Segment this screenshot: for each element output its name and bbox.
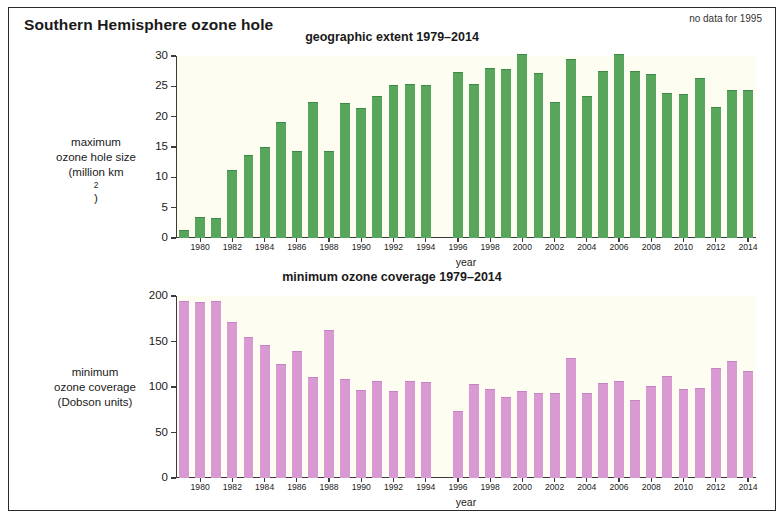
x-tick-label-coverage-1990: 1990	[352, 483, 371, 492]
bar-extent-1991	[372, 96, 382, 238]
bar-extent-2002	[550, 102, 560, 238]
y-tick-extent	[171, 207, 176, 208]
y-axis-bottom	[176, 296, 177, 478]
x-tick-label-coverage-1988: 1988	[319, 483, 338, 492]
bar-extent-2010	[679, 94, 689, 238]
bar-extent-2008	[646, 74, 656, 238]
bar-extent-1985	[276, 122, 286, 238]
x-tick-label-coverage-2006: 2006	[609, 483, 628, 492]
plot-area-bottom: 0501001502001980198219841986198819901992…	[176, 296, 756, 478]
bar-coverage-1981	[211, 301, 221, 478]
x-tick-label-extent-1992: 1992	[384, 243, 403, 252]
ozone-hole-figure: Southern Hemisphere ozone hole no data f…	[0, 0, 784, 521]
y-tick-label-extent: 30	[155, 50, 168, 62]
bar-extent-2003	[566, 59, 576, 238]
x-tick-label-extent-2010: 2010	[674, 243, 693, 252]
x-tick-label-coverage-2000: 2000	[513, 483, 532, 492]
x-axis-title-top: year	[456, 256, 476, 268]
bar-extent-1998	[485, 68, 495, 238]
x-tick-label-coverage-1982: 1982	[223, 483, 242, 492]
y-tick-coverage	[171, 386, 176, 387]
y-axis-title-bottom-line1: minimum	[20, 365, 170, 380]
x-tick-label-coverage-2014: 2014	[738, 483, 757, 492]
x-tick-label-coverage-2008: 2008	[642, 483, 661, 492]
bar-extent-1980	[195, 217, 205, 238]
y-axis-title-bottom: minimum ozone coverage (Dobson units)	[20, 365, 170, 411]
bar-coverage-1997	[469, 384, 479, 478]
bar-coverage-2013	[727, 361, 737, 478]
bar-extent-1990	[356, 108, 366, 238]
bar-coverage-2005	[598, 383, 608, 478]
bar-coverage-1988	[324, 330, 334, 478]
y-axis-top	[176, 56, 177, 238]
bar-coverage-1996	[453, 411, 463, 478]
x-tick-label-coverage-1986: 1986	[287, 483, 306, 492]
bar-coverage-2011	[695, 388, 705, 478]
y-tick-label-coverage: 150	[149, 336, 168, 348]
bar-extent-1988	[324, 151, 334, 238]
bar-extent-1982	[227, 170, 237, 238]
y-axis-title-top-line1: maximum	[26, 135, 166, 150]
y-axis-title-bottom-line2: ozone coverage	[20, 380, 170, 395]
bar-coverage-1983	[244, 337, 254, 478]
bar-coverage-1984	[260, 345, 270, 478]
bar-extent-1994	[421, 85, 431, 238]
x-tick-label-coverage-1998: 1998	[481, 483, 500, 492]
bar-coverage-2012	[711, 368, 721, 478]
bar-extent-2005	[598, 71, 608, 238]
bar-extent-1984	[260, 147, 270, 238]
y-tick-label-extent: 25	[155, 81, 168, 93]
bar-coverage-2000	[517, 391, 527, 478]
bar-extent-2007	[630, 71, 640, 238]
bar-extent-2006	[614, 54, 624, 238]
x-tick-label-extent-1984: 1984	[255, 243, 274, 252]
y-tick-label-coverage: 50	[155, 427, 168, 439]
bar-extent-1997	[469, 84, 479, 238]
y-tick-coverage	[171, 477, 176, 478]
bar-coverage-1994	[421, 382, 431, 478]
y-tick-extent	[171, 177, 176, 178]
bar-extent-2004	[582, 96, 592, 238]
bar-coverage-1989	[340, 379, 350, 478]
bar-coverage-2009	[662, 376, 672, 478]
bar-extent-1981	[211, 218, 221, 238]
y-tick-label-coverage: 0	[162, 472, 168, 484]
x-tick-label-extent-1982: 1982	[223, 243, 242, 252]
bar-coverage-1980	[195, 302, 205, 478]
x-tick-label-coverage-1984: 1984	[255, 483, 274, 492]
bar-coverage-2001	[534, 393, 544, 478]
bar-extent-2013	[727, 90, 737, 238]
y-tick-label-coverage: 100	[149, 381, 168, 393]
bar-extent-1986	[292, 151, 302, 238]
bar-extent-1992	[389, 85, 399, 238]
y-tick-extent	[171, 86, 176, 87]
y-tick-label-extent: 15	[155, 141, 168, 153]
x-tick-label-coverage-1980: 1980	[191, 483, 210, 492]
bar-coverage-1999	[501, 397, 511, 478]
y-tick-label-extent: 0	[162, 232, 168, 244]
x-tick-label-extent-1994: 1994	[416, 243, 435, 252]
bar-extent-1987	[308, 102, 318, 238]
y-tick-coverage	[171, 295, 176, 296]
x-tick-label-extent-2000: 2000	[513, 243, 532, 252]
x-axis-title-bottom: year	[456, 496, 476, 508]
y-tick-label-extent: 5	[162, 202, 168, 214]
y-axis-title-top-line3: (million km2)	[26, 165, 166, 206]
x-tick-label-coverage-1996: 1996	[448, 483, 467, 492]
bar-coverage-2007	[630, 400, 640, 478]
y-tick-extent	[171, 116, 176, 117]
x-tick-label-coverage-2004: 2004	[577, 483, 596, 492]
x-tick-label-extent-1988: 1988	[319, 243, 338, 252]
x-tick-label-extent-2006: 2006	[609, 243, 628, 252]
x-tick-label-coverage-2012: 2012	[706, 483, 725, 492]
bar-coverage-1986	[292, 351, 302, 478]
bar-coverage-2008	[646, 386, 656, 478]
bar-extent-1999	[501, 69, 511, 238]
y-tick-extent	[171, 146, 176, 147]
x-tick-label-extent-2004: 2004	[577, 243, 596, 252]
bar-extent-2001	[534, 73, 544, 238]
x-tick-label-coverage-2002: 2002	[545, 483, 564, 492]
bar-coverage-2002	[550, 393, 560, 478]
no-data-note: no data for 1995	[689, 13, 762, 24]
bar-extent-2011	[695, 78, 705, 238]
